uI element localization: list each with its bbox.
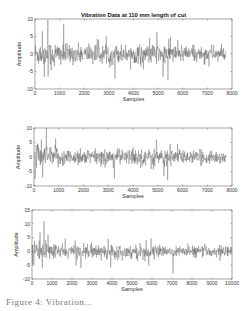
x-tick-label: 0 xyxy=(33,187,36,193)
y-axis-label: Amplitude xyxy=(15,145,21,169)
y-tick-label: -10 xyxy=(25,183,32,189)
y-tick-label: 5 xyxy=(29,139,32,145)
x-tick-label: 3000 xyxy=(103,187,114,193)
x-tick-label: 4000 xyxy=(106,280,117,286)
x-tick-label: 5000 xyxy=(153,90,164,96)
vibration-figure: 010002000300040005000600070008000-10-505… xyxy=(0,0,250,311)
y-tick-label: -5 xyxy=(29,68,34,74)
y-axis-label: Amplitude xyxy=(16,42,22,66)
x-tick-label: 8000 xyxy=(226,90,237,96)
x-tick-label: 7000 xyxy=(202,90,213,96)
x-axis-label: Samples xyxy=(123,96,145,102)
x-tick-label: 8000 xyxy=(186,280,197,286)
x-tick-label: 2000 xyxy=(78,187,89,193)
y-tick-label: 0 xyxy=(27,248,30,254)
x-tick-label: 10000 xyxy=(225,280,239,286)
x-tick-label: 3000 xyxy=(86,280,97,286)
figure-caption: Figure 4: Vibration... xyxy=(6,297,93,307)
chart-3: 0100020003000400050006000700080009000100… xyxy=(13,207,239,292)
x-tick-label: 8000 xyxy=(226,187,237,193)
x-tick-label: 1000 xyxy=(53,187,64,193)
y-tick-label: 0 xyxy=(29,154,32,160)
x-tick-label: 6000 xyxy=(177,90,188,96)
y-tick-label: 5 xyxy=(30,33,33,39)
y-tick-label: 10 xyxy=(26,125,32,131)
signal-line xyxy=(32,221,232,273)
x-tick-label: 7000 xyxy=(166,280,177,286)
x-tick-label: 6000 xyxy=(177,187,188,193)
y-tick-label: -10 xyxy=(26,86,33,92)
y-axis-label: Amplitude xyxy=(13,232,19,256)
x-tick-label: 7000 xyxy=(202,187,213,193)
chart-title: Vibration Data at 110 mm length of cut xyxy=(81,12,186,18)
y-tick-label: -10 xyxy=(23,276,30,282)
y-tick-label: 10 xyxy=(24,221,30,227)
chart-2: 010002000300040005000600070008000-10-505… xyxy=(15,125,238,199)
x-tick-label: 2000 xyxy=(66,280,77,286)
x-tick-label: 3000 xyxy=(103,90,114,96)
x-tick-label: 6000 xyxy=(146,280,157,286)
x-tick-label: 2000 xyxy=(79,90,90,96)
y-tick-label: 15 xyxy=(24,207,30,213)
x-tick-label: 9000 xyxy=(206,280,217,286)
y-tick-label: 0 xyxy=(30,51,33,57)
x-tick-label: 0 xyxy=(34,90,37,96)
x-tick-label: 5000 xyxy=(152,187,163,193)
y-tick-label: 5 xyxy=(27,234,30,240)
y-tick-label: 10 xyxy=(27,16,33,22)
signal-line xyxy=(35,20,226,81)
x-axis-label: Samples xyxy=(122,193,144,199)
x-tick-label: 1000 xyxy=(54,90,65,96)
chart-1: 010002000300040005000600070008000-10-505… xyxy=(16,12,238,103)
x-tick-label: 1000 xyxy=(46,280,57,286)
x-axis-label: Samples xyxy=(121,286,143,292)
y-tick-label: -5 xyxy=(26,262,31,268)
plot-frame xyxy=(32,210,232,279)
signal-line xyxy=(34,128,226,180)
y-tick-label: -5 xyxy=(28,168,33,174)
x-tick-label: 0 xyxy=(31,280,34,286)
